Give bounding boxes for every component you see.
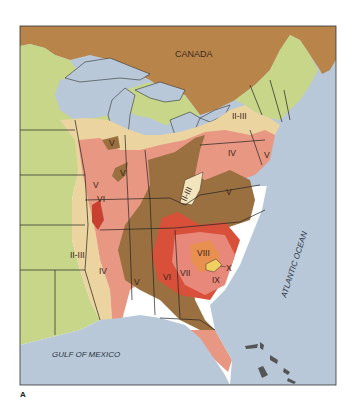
zone-label-mo-V: V <box>93 180 99 190</box>
zone-label-ms-IV: IV <box>99 266 107 276</box>
zone-label-lake-V: V <box>109 138 115 148</box>
label-canada: CANADA <box>175 49 213 59</box>
zone-label-sc-IX: IX <box>212 275 220 285</box>
intensity-map: CANADA GULF OF MEXICO ATLANTIC OCEAN II-… <box>0 0 355 410</box>
zone-label-sc-VII: VII <box>180 268 190 278</box>
zone-label-illinois-V: V <box>120 168 126 178</box>
zone-label-sc-VIII: VIII <box>197 248 210 258</box>
label-gulf-of-mexico: GULF OF MEXICO <box>52 350 120 359</box>
zone-label-ga-VI: VI <box>163 272 171 282</box>
zone-label-al-V: V <box>134 277 140 287</box>
panel-label: A <box>20 390 26 399</box>
zone-label-va-V: V <box>226 187 232 197</box>
zone-label-nj-V: V <box>264 150 270 160</box>
zone-label-mo-VI: VI <box>97 194 105 204</box>
zone-label-sc-X: X <box>226 263 232 273</box>
zone-label-pa-IV: IV <box>228 148 236 158</box>
zone-label-ne-II-III: II-III <box>232 111 247 121</box>
zone-label-ar-II-III: II-III <box>70 250 85 260</box>
